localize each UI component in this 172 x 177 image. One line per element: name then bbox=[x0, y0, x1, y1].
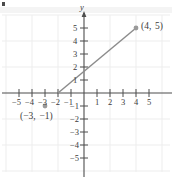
data-point-4-5 bbox=[134, 26, 139, 31]
point-label-4-5: (4, 5) bbox=[141, 22, 163, 32]
coordinate-plane-figure: y −5 −4 −3 −2 −1 1 2 3 4 5 5 4 3 2 1 −1 … bbox=[0, 0, 172, 177]
y-tick-label-2: 2 bbox=[73, 63, 77, 72]
x-tick-label-5: 5 bbox=[147, 98, 151, 107]
y-axis-label: y bbox=[80, 3, 84, 12]
y-tick-label-4: 4 bbox=[73, 37, 77, 46]
y-tick-label-neg5: −5 bbox=[70, 154, 79, 163]
y-tick-label-1: 1 bbox=[73, 76, 77, 85]
point-label-neg3-neg1: (−3, −1) bbox=[20, 112, 53, 122]
y-tick-label-5: 5 bbox=[73, 24, 77, 33]
x-tick-label-neg3: −3 bbox=[38, 98, 47, 107]
x-tick-label-3: 3 bbox=[121, 98, 125, 107]
x-tick-label-neg4: −4 bbox=[25, 98, 34, 107]
ray-series bbox=[58, 28, 136, 93]
x-tick-label-4: 4 bbox=[134, 98, 138, 107]
y-tick-label-neg2: −2 bbox=[70, 115, 79, 124]
y-tick-label-neg1: −1 bbox=[70, 102, 79, 111]
x-tick-label-neg5: −5 bbox=[12, 98, 21, 107]
y-tick-label-neg4: −4 bbox=[70, 141, 79, 150]
x-tick-label-neg2: −2 bbox=[51, 98, 60, 107]
x-tick-label-2: 2 bbox=[108, 98, 112, 107]
y-tick-label-neg3: −3 bbox=[70, 128, 79, 137]
x-tick-label-1: 1 bbox=[95, 98, 99, 107]
y-tick-label-3: 3 bbox=[73, 50, 77, 59]
